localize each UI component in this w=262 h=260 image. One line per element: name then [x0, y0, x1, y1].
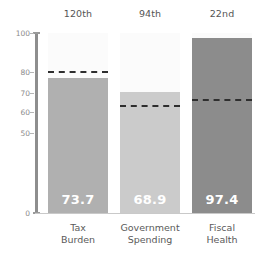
bar-government-spending[interactable]: 68.9 — [120, 92, 180, 213]
average-line-government-spending — [120, 105, 180, 107]
x-axis-baseline — [35, 213, 255, 214]
y-axis-line — [35, 33, 38, 214]
bar-value-tax-burden: 73.7 — [48, 192, 108, 207]
category-label-fiscal-health-line2: Health — [180, 234, 262, 246]
bar-fiscal-health[interactable]: 97.4 — [192, 38, 252, 213]
column-track-fiscal-health: 97.4 — [192, 33, 252, 213]
category-label-row: Tax Burden Government Spending Fiscal He… — [0, 218, 262, 260]
plot-area: 100 80 70 60 50 0 73.7 68.9 — [0, 0, 262, 220]
bar-value-government-spending: 68.9 — [120, 192, 180, 207]
column-track-tax-burden: 73.7 — [48, 33, 108, 213]
y-tick-label-0: 0 — [4, 210, 30, 218]
bar-value-fiscal-health: 97.4 — [192, 192, 252, 207]
y-tick-mark-50 — [30, 133, 34, 134]
y-tick-mark-80 — [30, 72, 34, 73]
y-tick-mark-100 — [30, 33, 34, 34]
y-tick-mark-70 — [30, 93, 34, 94]
y-tick-label-50: 50 — [4, 130, 30, 138]
column-track-government-spending: 68.9 — [120, 33, 180, 213]
y-tick-label-80: 80 — [4, 69, 30, 77]
category-label-fiscal-health-line1: Fiscal — [180, 222, 262, 234]
average-line-fiscal-health — [192, 99, 252, 101]
y-tick-label-70: 70 — [4, 90, 30, 98]
y-tick-label-100: 100 — [4, 30, 30, 38]
bar-tax-burden[interactable]: 73.7 — [48, 78, 108, 213]
bar-chart: 120th 94th 22nd 100 80 70 60 50 0 73.7 — [0, 0, 262, 260]
y-tick-mark-60 — [30, 112, 34, 113]
category-label-fiscal-health: Fiscal Health — [180, 222, 262, 245]
y-tick-label-60: 60 — [4, 109, 30, 117]
average-line-tax-burden — [48, 71, 108, 73]
